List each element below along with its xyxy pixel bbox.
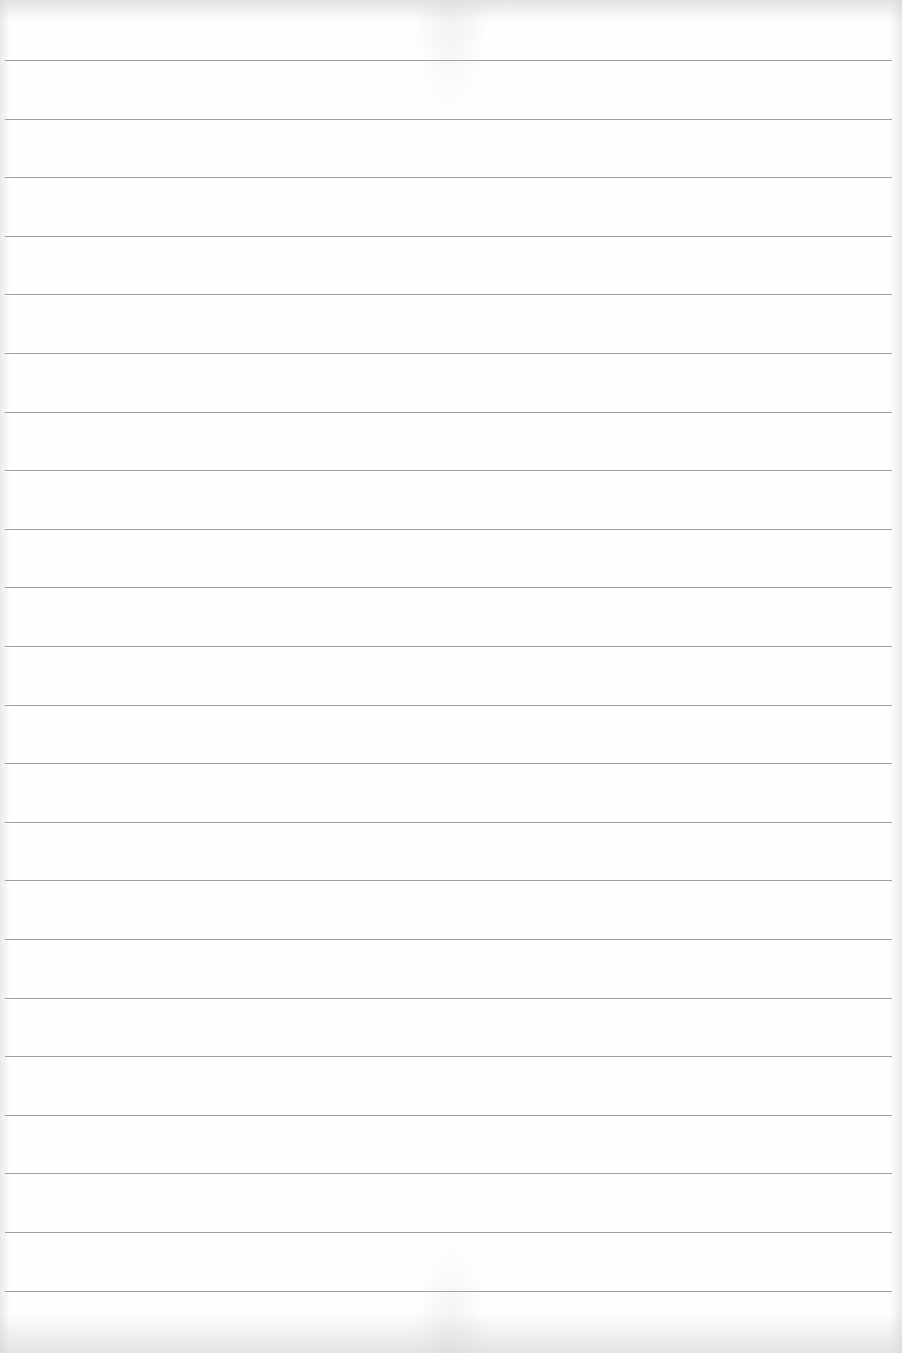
ruled-line bbox=[5, 470, 892, 471]
ruled-line bbox=[5, 529, 892, 530]
ruled-line bbox=[5, 939, 892, 940]
ruled-line bbox=[5, 294, 892, 295]
ruled-line bbox=[5, 822, 892, 823]
ruled-line bbox=[5, 177, 892, 178]
ruled-line bbox=[5, 880, 892, 881]
ruled-line bbox=[5, 998, 892, 999]
ruled-line bbox=[5, 60, 892, 61]
ruled-line bbox=[5, 646, 892, 647]
ruled-line bbox=[5, 353, 892, 354]
ruled-line bbox=[5, 763, 892, 764]
ruled-line bbox=[5, 412, 892, 413]
paper-bottom-edge-shadow bbox=[0, 1313, 902, 1353]
ruled-line bbox=[5, 1115, 892, 1116]
ruled-line bbox=[5, 1173, 892, 1174]
ruled-line bbox=[5, 705, 892, 706]
ruled-line bbox=[5, 1232, 892, 1233]
ruled-line bbox=[5, 1056, 892, 1057]
ruled-line bbox=[5, 1291, 892, 1292]
ruled-line bbox=[5, 236, 892, 237]
paper-top-edge-shadow bbox=[0, 0, 902, 22]
ruled-line bbox=[5, 119, 892, 120]
ruled-line bbox=[5, 587, 892, 588]
lined-paper-sheet bbox=[0, 0, 902, 1353]
